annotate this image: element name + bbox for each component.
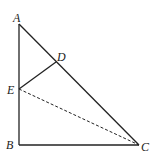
triangle-diagram: A B C D E — [0, 0, 158, 168]
segment-ED — [19, 62, 56, 89]
label-C: C — [141, 140, 150, 154]
label-A: A — [12, 11, 21, 25]
label-B: B — [6, 138, 14, 152]
segment-AC — [19, 24, 139, 145]
label-E: E — [6, 83, 15, 97]
label-D: D — [56, 50, 66, 64]
segment-EC-dashed — [19, 89, 139, 145]
diagram-svg: A B C D E — [0, 0, 158, 168]
